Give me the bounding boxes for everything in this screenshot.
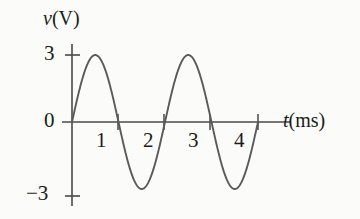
x-tick-label-1: 1 bbox=[96, 130, 107, 151]
x-tick-label-4: 4 bbox=[234, 130, 245, 151]
y-tick-label-0: 0 bbox=[44, 110, 55, 131]
x-tick-label-2: 2 bbox=[143, 130, 154, 151]
y-tick-label-neg3: −3 bbox=[26, 183, 48, 204]
x-axis-title: t(ms) bbox=[283, 110, 325, 130]
y-tick-label-3: 3 bbox=[44, 43, 55, 64]
y-axis-symbol: v bbox=[43, 7, 52, 29]
waveform-figure: v(V) t(ms) 3 0 −3 1 2 3 4 bbox=[0, 0, 360, 219]
x-tick-label-3: 3 bbox=[188, 130, 199, 151]
y-axis-title: v(V) bbox=[43, 8, 80, 28]
y-axis-unit: (V) bbox=[52, 7, 80, 29]
x-axis-unit: (ms) bbox=[289, 109, 326, 131]
